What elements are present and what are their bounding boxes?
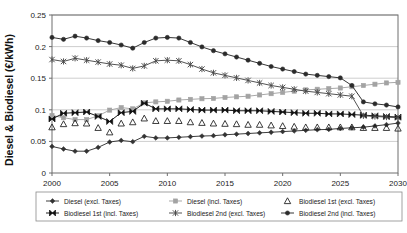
y-axis-title: Diesel & Biodiesel (€/kWh) (3, 34, 15, 166)
series-biodiesel-2nd-excl-taxes (49, 55, 400, 121)
data-point-marker (234, 132, 239, 137)
x-tick-label: 2000 (43, 179, 61, 188)
data-point-marker (383, 125, 389, 131)
data-point-marker (223, 52, 227, 56)
legend-label: Biodiesel 1st (incl. Taxes) (64, 210, 138, 218)
data-point-marker (269, 64, 273, 68)
data-point-marker (396, 105, 400, 109)
data-point-marker (73, 149, 78, 154)
data-point-marker (222, 107, 228, 113)
data-point-marker (326, 111, 332, 117)
data-point-marker (338, 86, 342, 90)
chart-container: 00.050.10.150.20.25 20002005201020152020… (0, 0, 407, 233)
data-point-marker (119, 138, 124, 143)
data-point-marker (246, 94, 250, 98)
data-point-marker (245, 108, 251, 114)
data-point-marker (118, 110, 124, 116)
data-point-marker (303, 110, 309, 116)
data-point-marker (61, 147, 66, 152)
x-axis-ticks: 2000200520102015202020252030 (43, 173, 407, 188)
data-point-marker (164, 106, 170, 112)
data-point-marker (106, 129, 112, 135)
data-point-marker (164, 118, 170, 124)
data-point-marker (187, 119, 193, 125)
data-point-marker (130, 119, 136, 125)
series-line (52, 58, 398, 117)
data-series-layer (49, 34, 401, 154)
data-point-marker (279, 123, 285, 129)
data-point-marker (177, 36, 181, 40)
data-point-marker (119, 43, 123, 47)
data-point-marker (108, 40, 112, 44)
series-diesel-excl-taxes (50, 121, 401, 154)
data-point-marker (200, 134, 205, 139)
y-tick-label: 0.15 (30, 74, 46, 83)
plot-area-frame (52, 15, 398, 173)
data-point-marker (72, 110, 78, 116)
data-point-marker (176, 135, 181, 140)
line-chart: 00.050.10.150.20.25 20002005201020152020… (0, 0, 407, 233)
x-tick-label: 2020 (274, 179, 292, 188)
data-point-marker (361, 83, 365, 87)
data-point-marker (258, 93, 262, 97)
data-point-marker (50, 35, 54, 39)
data-point-marker (268, 108, 274, 114)
data-point-marker (130, 139, 135, 144)
y-tick-label: 0.1 (35, 106, 47, 115)
data-point-marker (303, 128, 308, 133)
data-point-marker (50, 113, 54, 117)
data-point-marker (199, 120, 205, 126)
data-point-marker (384, 81, 388, 85)
series-line (52, 103, 398, 121)
data-point-marker (350, 83, 354, 87)
data-point-marker (96, 38, 100, 42)
x-tick-label: 2005 (101, 179, 119, 188)
data-point-marker (211, 49, 215, 53)
data-point-marker (234, 95, 238, 99)
data-point-marker (141, 115, 147, 121)
data-point-marker (188, 62, 193, 68)
data-point-marker (165, 99, 169, 103)
legend-label: Diesel (incl. Taxes) (187, 198, 242, 206)
data-point-marker (199, 66, 204, 72)
data-point-marker (173, 199, 177, 203)
data-point-marker (337, 111, 343, 117)
data-point-marker (60, 121, 66, 127)
y-tick-label: 0.05 (30, 137, 46, 146)
data-point-marker (96, 145, 101, 150)
y-tick-label: 0.25 (30, 11, 46, 20)
data-point-marker (281, 67, 285, 71)
data-point-marker (304, 72, 308, 76)
data-point-marker (234, 108, 240, 114)
data-point-marker (281, 90, 285, 94)
data-point-marker (165, 136, 170, 141)
data-point-marker (246, 131, 251, 136)
data-point-marker (373, 102, 377, 106)
data-point-marker (349, 112, 355, 118)
data-point-marker (257, 108, 263, 114)
data-point-marker (165, 35, 169, 39)
legend-box (36, 192, 402, 221)
data-point-marker (153, 136, 158, 141)
data-point-marker (200, 45, 204, 49)
data-point-marker (315, 73, 319, 77)
legend-label: Biodiesel 2nd (incl. Taxes) (299, 210, 375, 218)
data-point-marker (176, 118, 182, 124)
data-point-marker (223, 95, 227, 99)
x-tick-label: 2025 (331, 179, 349, 188)
data-point-marker (396, 80, 400, 84)
data-point-marker (154, 36, 158, 40)
data-point-marker (188, 97, 192, 101)
data-point-marker (176, 106, 182, 112)
data-point-marker (245, 121, 251, 127)
data-point-marker (291, 110, 297, 116)
data-point-marker (258, 61, 262, 65)
legend-label: Diesel (excl. Taxes) (64, 198, 121, 206)
data-point-marker (50, 144, 55, 149)
data-point-marker (268, 122, 274, 128)
data-point-marker (107, 140, 112, 145)
y-tick-label: 0.2 (35, 43, 47, 52)
data-point-marker (177, 98, 181, 102)
data-point-marker (257, 130, 262, 135)
data-point-marker (210, 120, 216, 126)
